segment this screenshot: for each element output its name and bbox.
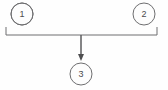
diagram-canvas: 1 2 3	[0, 0, 168, 90]
flow-diagram-svg: 1 2 3	[0, 0, 168, 90]
node-label-1: 1	[19, 9, 24, 19]
bracket-connector	[6, 27, 157, 35]
arrowhead-icon	[78, 54, 84, 61]
node-label-2: 2	[141, 9, 146, 19]
node-label-3: 3	[78, 69, 83, 79]
